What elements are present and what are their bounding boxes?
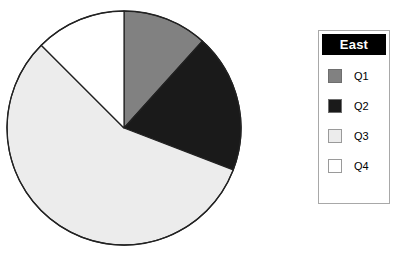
legend-row-q3[interactable]: Q3 (322, 121, 386, 151)
pie-chart-figure: East Q1Q2Q3Q4 (0, 0, 408, 260)
legend-row-q4[interactable]: Q4 (322, 151, 386, 181)
legend-title-bar: East (322, 34, 386, 55)
legend-label-q1: Q1 (354, 71, 369, 82)
legend-label-q2: Q2 (354, 101, 369, 112)
legend-swatch-q2 (328, 99, 342, 113)
legend-row-q2[interactable]: Q2 (322, 91, 386, 121)
legend-swatch-q3 (328, 129, 342, 143)
legend-entry-list: Q1Q2Q3Q4 (322, 61, 386, 181)
pie-slice-group (7, 11, 241, 245)
legend-row-q1[interactable]: Q1 (322, 61, 386, 91)
legend-label-q4: Q4 (354, 161, 369, 172)
legend-swatch-q1 (328, 69, 342, 83)
legend-title-label: East (340, 38, 368, 51)
pie-svg (0, 0, 260, 260)
pie-plot-area (0, 0, 260, 260)
legend-label-q3: Q3 (354, 131, 369, 142)
legend-swatch-q4 (328, 159, 342, 173)
legend-box: East Q1Q2Q3Q4 (318, 30, 390, 204)
